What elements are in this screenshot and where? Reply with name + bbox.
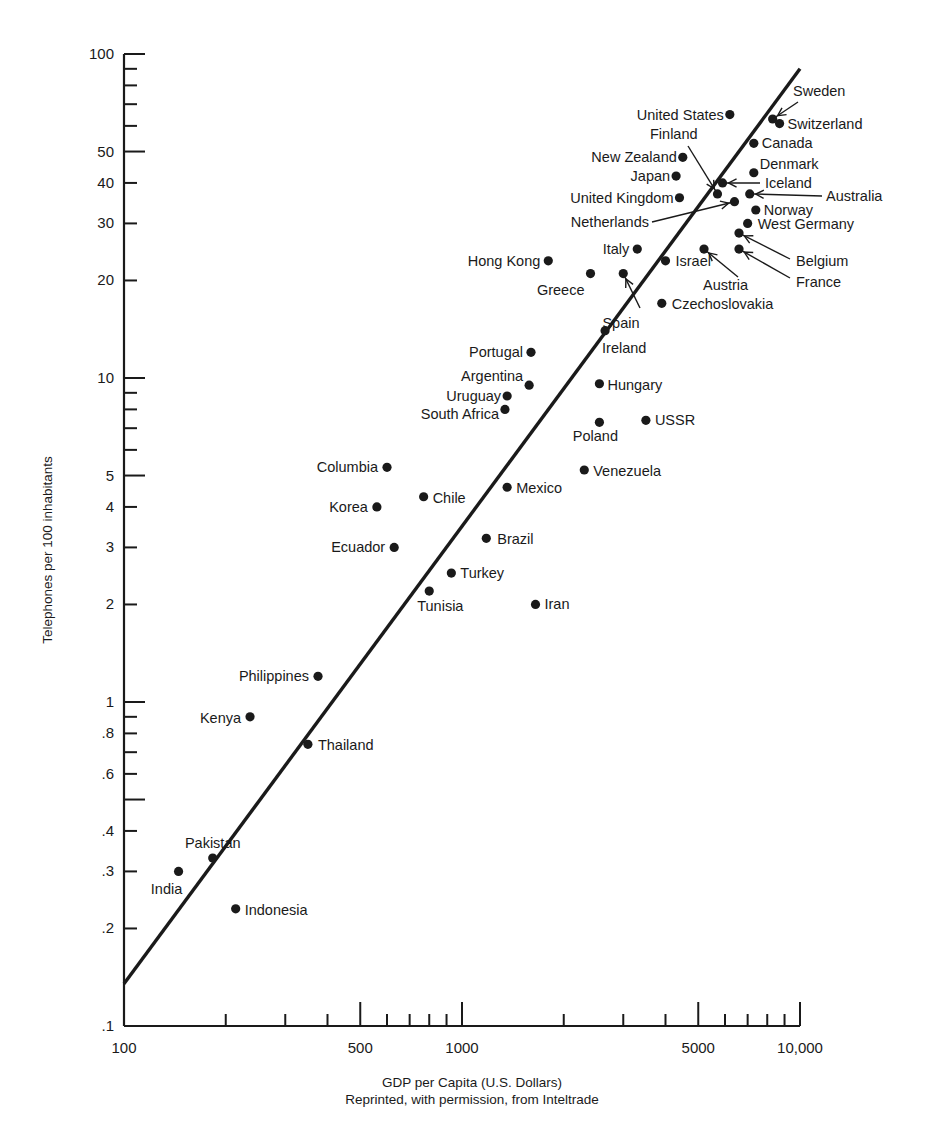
leader-arrow [739, 249, 790, 278]
data-point: Hungary [595, 377, 663, 393]
point-marker [526, 348, 535, 357]
data-point: Kenya [200, 710, 255, 726]
point-marker [245, 712, 254, 721]
data-points: United StatesSwedenSwitzerlandCanadaNew … [151, 83, 884, 918]
axes: 100504030201054321.8.6.4.3.2.11005001000… [89, 45, 823, 1056]
point-label: Finland [650, 126, 698, 142]
data-point: Brazil [482, 531, 534, 547]
point-label: Korea [329, 499, 369, 515]
point-marker [503, 483, 512, 492]
point-label: Indonesia [245, 902, 309, 918]
point-label: Kenya [200, 710, 242, 726]
data-point: Hong Kong [468, 253, 553, 269]
data-point: Greece [537, 269, 595, 298]
point-label: Mexico [516, 480, 562, 496]
point-label: Poland [573, 428, 618, 444]
y-tick-label: 2 [106, 595, 114, 612]
point-marker [482, 534, 491, 543]
leader-arrow [688, 146, 717, 194]
point-label: Brazil [497, 531, 533, 547]
point-label: United Kingdom [570, 190, 673, 206]
point-marker [595, 379, 604, 388]
point-label: New Zealand [591, 149, 676, 165]
point-label: Argentina [461, 368, 524, 384]
point-label: Uruguay [446, 388, 502, 404]
point-label: Philippines [239, 668, 309, 684]
point-marker [661, 256, 670, 265]
data-point: Poland [573, 418, 618, 445]
point-marker [743, 219, 752, 228]
point-label: Switzerland [788, 116, 863, 132]
x-tick-label: 5000 [682, 1039, 715, 1056]
point-marker [633, 244, 642, 253]
data-point: Columbia [317, 459, 392, 475]
point-marker [725, 110, 734, 119]
data-point: United Kingdom [570, 190, 684, 206]
data-point: Chile [419, 490, 466, 506]
point-label: Japan [631, 168, 671, 184]
point-label: France [796, 274, 841, 290]
point-marker [525, 381, 534, 390]
point-marker [749, 139, 758, 148]
point-marker [500, 405, 509, 414]
y-tick-label: 20 [97, 271, 114, 288]
point-label: Czechoslovakia [672, 296, 774, 312]
point-marker [503, 391, 512, 400]
x-tick-label: 100 [111, 1039, 136, 1056]
point-label: Hungary [607, 377, 663, 393]
data-point: Israel [661, 253, 711, 269]
y-tick-label: 1 [106, 693, 114, 710]
point-marker [600, 326, 609, 335]
arrowhead-icon [778, 108, 787, 116]
data-point: Ecuador [331, 539, 399, 555]
y-tick-label: 10 [97, 369, 114, 386]
point-marker [678, 153, 687, 162]
point-marker [425, 586, 434, 595]
point-marker [749, 168, 758, 177]
point-label: Italy [603, 241, 630, 257]
data-point: Switzerland [775, 116, 863, 132]
data-point: Philippines [239, 668, 323, 684]
point-marker [641, 416, 650, 425]
point-marker [675, 193, 684, 202]
data-point: Italy [603, 241, 642, 257]
point-label: Ecuador [331, 539, 385, 555]
data-point: Iran [531, 596, 570, 612]
point-label: Sweden [793, 83, 845, 99]
point-marker [174, 867, 183, 876]
data-point: Argentina [461, 368, 534, 390]
point-label: Turkey [460, 565, 505, 581]
point-marker [390, 543, 399, 552]
point-label: Thailand [318, 737, 374, 753]
data-point: Spain [602, 269, 640, 331]
data-point: Uruguay [446, 388, 511, 404]
point-label: Denmark [760, 156, 820, 172]
point-label: Venezuela [593, 463, 662, 479]
point-marker [586, 269, 595, 278]
data-point: United States [637, 107, 735, 123]
data-point: Turkey [447, 565, 505, 581]
data-point: Japan [631, 168, 681, 184]
data-point: West Germany [743, 216, 855, 232]
point-marker [775, 119, 784, 128]
data-point: Mexico [503, 480, 563, 496]
data-point: Pakistan [185, 835, 241, 863]
point-label: Canada [762, 135, 814, 151]
data-point: Venezuela [580, 463, 662, 479]
x-axis-label: GDP per Capita (U.S. Dollars) [0, 1074, 944, 1091]
point-marker [580, 465, 589, 474]
point-marker [303, 740, 312, 749]
point-label: Columbia [317, 459, 379, 475]
point-marker [231, 904, 240, 913]
y-tick-label: 3 [106, 538, 114, 555]
point-marker [531, 600, 540, 609]
y-tick-label: 30 [97, 214, 114, 231]
y-tick-label: .2 [101, 919, 114, 936]
leader-arrow [750, 194, 822, 196]
point-label: Hong Kong [468, 253, 541, 269]
data-point: Iceland [718, 175, 812, 191]
point-label: Austria [703, 277, 749, 293]
point-label: Ireland [602, 340, 646, 356]
point-marker [544, 256, 553, 265]
data-point: Korea [329, 499, 381, 515]
